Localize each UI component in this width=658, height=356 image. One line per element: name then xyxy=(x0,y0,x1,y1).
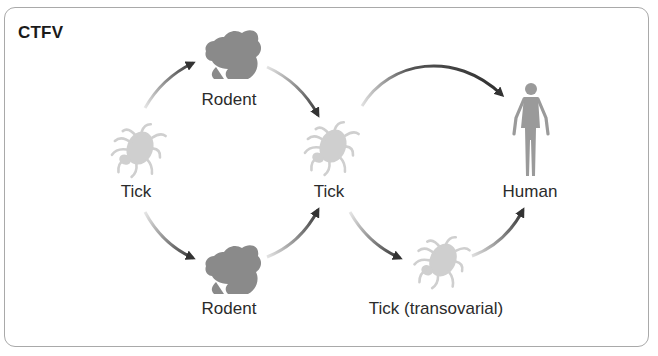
human-figure-icon xyxy=(514,83,548,176)
node-tick-middle: Tick xyxy=(298,113,362,201)
node-label: Tick xyxy=(121,182,152,201)
arrow-tick-to-rodent-bottom xyxy=(145,212,193,258)
tick-icon xyxy=(105,115,169,184)
node-label: Rodent xyxy=(202,299,257,318)
node-label: Rodent xyxy=(202,90,257,109)
tick-icon xyxy=(298,113,362,182)
arrow-tick-to-tick-transovarial xyxy=(350,212,400,258)
arrow-tick-to-rodent-top xyxy=(145,63,193,108)
arrow-rodent-top-to-tick xyxy=(267,67,318,115)
node-label: Tick xyxy=(314,182,345,201)
arrow-tick-transovarial-to-human xyxy=(472,210,523,256)
node-rodent-top: Rodent xyxy=(202,30,261,109)
node-rodent-bottom: Rodent xyxy=(202,245,261,318)
arrow-tick-to-human xyxy=(362,66,502,106)
arrow-rodent-bottom-to-tick xyxy=(267,210,318,257)
squirrel-icon xyxy=(205,30,261,79)
node-label: Human xyxy=(503,182,558,201)
node-tick-transovarial: Tick (transovarial) xyxy=(369,225,503,318)
node-label: Tick (transovarial) xyxy=(369,299,503,318)
node-human: Human xyxy=(503,83,558,201)
tick-icon xyxy=(407,225,474,296)
node-tick-start: Tick xyxy=(105,115,169,201)
squirrel-icon xyxy=(205,245,261,294)
